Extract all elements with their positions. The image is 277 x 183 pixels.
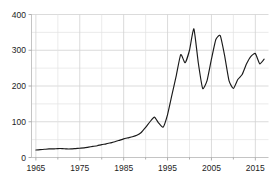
- x-tick-label-1985: 1985: [114, 163, 133, 173]
- y-tick-label-100: 100: [12, 117, 26, 127]
- x-tick-label-1975: 1975: [70, 163, 89, 173]
- line-chart: 0100200300400 196519751985199520052015: [0, 0, 277, 183]
- y-tick-label-300: 300: [12, 45, 26, 55]
- x-tick-label-1965: 1965: [26, 163, 45, 173]
- y-tick-label-400: 400: [12, 10, 26, 20]
- y-tick-label-200: 200: [12, 81, 26, 91]
- x-tick-label-1995: 1995: [158, 163, 177, 173]
- y-tick-label-0: 0: [21, 153, 26, 163]
- x-axis-tick-labels: 196519751985199520052015: [26, 163, 265, 173]
- x-tick-label-2005: 2005: [202, 163, 221, 173]
- chart-canvas: 0100200300400 196519751985199520052015: [0, 0, 277, 183]
- data-series-line: [36, 29, 264, 150]
- y-axis-tick-labels: 0100200300400: [12, 10, 26, 163]
- x-tick-label-2015: 2015: [246, 163, 265, 173]
